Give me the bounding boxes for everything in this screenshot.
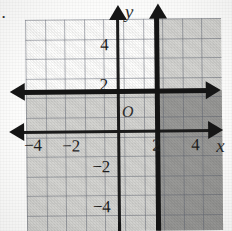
y-axis-bottom-stub [118,222,121,231]
x-axis-left-arrow [9,123,24,141]
y-tick-label--4: −4 [93,198,111,215]
x-axis-label: x [216,136,224,155]
grid-area [25,18,223,231]
x-tick-label--2: −2 [62,137,80,154]
boundary-x2-up-arrow [149,4,167,19]
gridlines [25,18,223,231]
y-tick-label--2: −2 [92,158,110,175]
x-tick-label-2: 2 [152,137,160,154]
y-tick-label-2: 2 [100,76,108,93]
y-tick-label-4: 4 [100,36,108,53]
boundary-y2-right-arrow [206,81,221,99]
boundary-x2-bottom-stub [156,222,161,231]
figure-canvas: . −4 −2 2 4 [0,0,232,231]
y-axis-label: y [125,2,133,21]
x-tick-label--4: −4 [24,137,42,154]
origin-label: O [122,104,133,120]
boundary-y2-left-arrow [10,83,25,101]
coordinate-plane: −4 −2 2 4 4 2 −2 −4 y x O [0,0,232,231]
x-tick-label-4: 4 [191,136,199,153]
